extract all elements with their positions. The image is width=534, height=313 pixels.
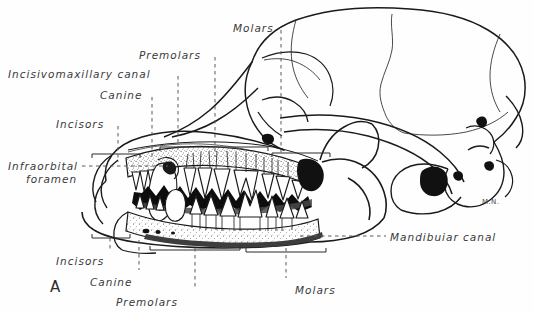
label-incisors-top: Incisors: [56, 118, 104, 131]
artist-initials: M.N.: [482, 198, 499, 206]
label-infraorbital-foramen-2: foramen: [26, 173, 77, 186]
auditory-meatus: [420, 167, 448, 197]
label-incisors-bottom: Incisors: [56, 255, 104, 268]
label-molars-top: Molars: [233, 22, 274, 35]
label-premolars-top: Premolars: [139, 49, 201, 62]
label-mandibular-canal: Mandibuiar canal: [390, 231, 496, 244]
label-canine-top: Canine: [100, 89, 142, 102]
figure-letter: A: [50, 278, 61, 296]
label-premolars-bottom: Premolars: [116, 296, 178, 309]
label-canine-bottom: Canine: [90, 276, 132, 289]
label-molars-bottom: Molars: [295, 284, 336, 297]
label-incisivomaxillary-canal: Incisivomaxillary canal: [8, 68, 151, 81]
figure-container: MolarsPremolarsIncisivomaxillary canalCa…: [0, 0, 534, 313]
label-infraorbital-foramen-1: Infraorbital: [8, 160, 78, 173]
